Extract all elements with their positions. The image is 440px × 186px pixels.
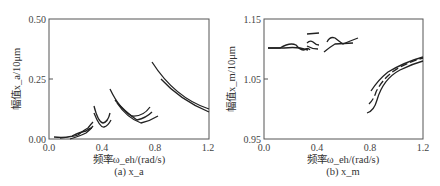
ylabel-a: 幅值x_a/10μm	[10, 48, 22, 110]
xtick-a-2: 0.8	[149, 142, 162, 153]
xtick-b-3: 1.2	[417, 142, 430, 153]
curves-a	[54, 62, 209, 139]
figure: 0.50 0.25 0.00 0.0 0.4 0.8 1.2 频率ω_eh/(r…	[0, 0, 440, 186]
chart-a: 0.50 0.25 0.00 0.0 0.4 0.8 1.2 频率ω_eh/(r…	[10, 14, 214, 179]
caption-b: (b) x_m	[326, 166, 360, 178]
ytick-b-mid: 1.05	[244, 74, 262, 85]
xtick-a-3: 1.2	[202, 142, 215, 153]
ytick-a-mid: 0.25	[29, 74, 47, 85]
xtick-a-0: 0.0	[43, 142, 56, 153]
xlabel-b: 频率ω_eh/(rad/s)	[307, 153, 380, 166]
plot-frame-a	[49, 19, 209, 139]
xtick-b-2: 0.8	[364, 142, 377, 153]
xlabel-a: 频率ω_eh/(rad/s)	[93, 153, 166, 166]
xtick-b-1: 0.4	[311, 142, 324, 153]
ytick-b-top: 1.15	[244, 14, 262, 25]
ylabel-b: 幅值x_m/10μm	[225, 46, 237, 112]
curves-b	[268, 33, 423, 113]
chart-b: 1.15 1.05 0.95 0.0 0.4 0.8 1.2 频率ω_eh/(r…	[225, 14, 429, 179]
xtick-a-1: 0.4	[96, 142, 109, 153]
ytick-a-top: 0.50	[29, 14, 47, 25]
xtick-b-0: 0.0	[258, 142, 271, 153]
caption-a: (a) x_a	[114, 166, 144, 178]
plot-frame-b	[264, 19, 423, 139]
